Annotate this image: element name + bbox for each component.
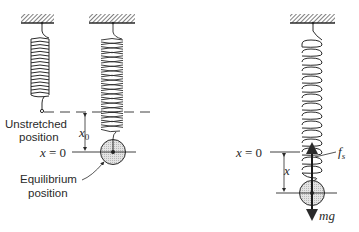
unstretched-spring-panel: Unstretched position	[5, 14, 67, 143]
displaced-spring-panel: fs mg x = 0 x	[235, 14, 346, 223]
x0-label: x0	[78, 125, 90, 142]
unstretched-label-line2: position	[19, 131, 59, 143]
displacement-label: x	[283, 163, 290, 178]
equilibrium-pointer-arrow	[82, 163, 103, 180]
unstretched-spring-coil	[31, 23, 49, 110]
spring-diagram: Unstretched position x0 x = 0 Equilibriu…	[0, 0, 359, 232]
equilibrium-label-line1: Equilibrium	[20, 173, 77, 185]
weight-label: mg	[319, 208, 335, 223]
unstretched-label-line1: Unstretched	[5, 118, 67, 130]
ceiling-support-middle	[89, 14, 135, 23]
origin-label-left: x = 0	[39, 145, 66, 160]
equilibrium-spring-coil	[101, 23, 123, 152]
equilibrium-label-line2: position	[28, 187, 68, 199]
unstretched-end-point	[40, 109, 43, 112]
origin-label-right: x = 0	[235, 145, 262, 160]
spring-force-label: fs	[338, 144, 346, 161]
ceiling-support-right	[290, 14, 335, 23]
ceiling-support-left	[21, 14, 54, 23]
